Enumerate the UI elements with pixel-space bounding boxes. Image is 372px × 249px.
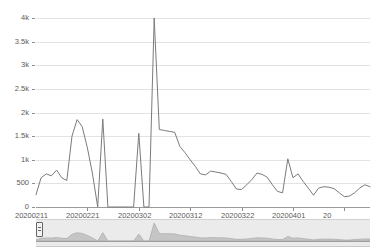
navigator-handle-left[interactable]	[36, 222, 43, 237]
navigator-area-path	[36, 223, 370, 241]
navigator-preview-chart	[36, 220, 370, 246]
series-line-value	[36, 18, 370, 207]
line-series	[0, 0, 372, 212]
range-navigator[interactable]	[36, 219, 370, 247]
navigator-baseline	[36, 241, 370, 242]
chart-plot-area: 05001k1.5k2k2.5k3k3.5k4k 202002112020022…	[0, 0, 372, 212]
chart-widget: 05001k1.5k2k2.5k3k3.5k4k 202002112020022…	[0, 0, 372, 249]
